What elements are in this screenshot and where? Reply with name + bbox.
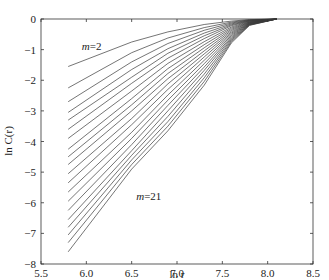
y-axis-label-text: ln C(r) bbox=[2, 126, 15, 156]
y-axis-ticks: 0−1−2−3−4−5−6−7−8 bbox=[24, 13, 313, 270]
plot-frame bbox=[41, 19, 313, 264]
x-tick-label: 5.5 bbox=[34, 267, 48, 279]
x-tick-label: 6.0 bbox=[79, 267, 93, 279]
y-axis-label: ln C(r) bbox=[2, 126, 15, 156]
y-tick-label: −1 bbox=[24, 44, 36, 56]
y-tick-label: −7 bbox=[24, 227, 36, 239]
y-tick-label: 0 bbox=[31, 13, 37, 25]
annotation-label: m=2 bbox=[82, 40, 102, 52]
series-line-m-9 bbox=[68, 19, 277, 149]
chart: 5.56.06.57.07.58.08.5 0−1−2−3−4−5−6−7−8 … bbox=[0, 0, 329, 280]
y-tick-label: −3 bbox=[24, 105, 36, 117]
series-line-m-6 bbox=[68, 19, 277, 120]
y-tick-label: −5 bbox=[24, 166, 36, 178]
x-axis-label-text: ln r bbox=[170, 268, 185, 280]
y-tick-label: −8 bbox=[24, 258, 36, 270]
y-tick-label: −6 bbox=[24, 197, 36, 209]
x-tick-label: 6.5 bbox=[125, 267, 139, 279]
x-tick-label: 8.5 bbox=[306, 267, 320, 279]
series-line-m-21 bbox=[68, 19, 277, 252]
annotation-label: m=21 bbox=[136, 190, 161, 202]
x-tick-label: 7.5 bbox=[215, 267, 229, 279]
x-tick-label: 8.0 bbox=[261, 267, 275, 279]
series-lines bbox=[68, 19, 277, 252]
y-tick-label: −2 bbox=[24, 74, 36, 86]
series-line-m-7 bbox=[68, 19, 277, 129]
x-axis-label: ln r bbox=[170, 268, 185, 280]
y-tick-label: −4 bbox=[24, 136, 36, 148]
